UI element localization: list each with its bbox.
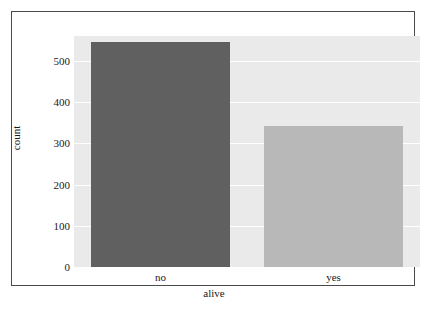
bar-no[interactable] (91, 42, 229, 267)
y-tick-label: 400 (24, 96, 70, 108)
y-tick-label: 200 (24, 179, 70, 191)
y-tick-label: 300 (24, 137, 70, 149)
x-tick-label-no: no (155, 271, 166, 283)
y-axis-tick-labels: 0100200300400500 (20, 36, 70, 267)
y-tick-label: 500 (24, 55, 70, 67)
plot-area (74, 36, 420, 267)
figure-frame: 0100200300400500 count alive noyes (11, 11, 415, 286)
y-tick-label: 100 (24, 220, 70, 232)
x-tick-label-yes: yes (326, 271, 341, 283)
x-axis-title: alive (12, 287, 416, 299)
bar-yes[interactable] (264, 126, 402, 267)
y-tick-label: 0 (24, 261, 70, 273)
y-axis-title: count (10, 126, 22, 150)
